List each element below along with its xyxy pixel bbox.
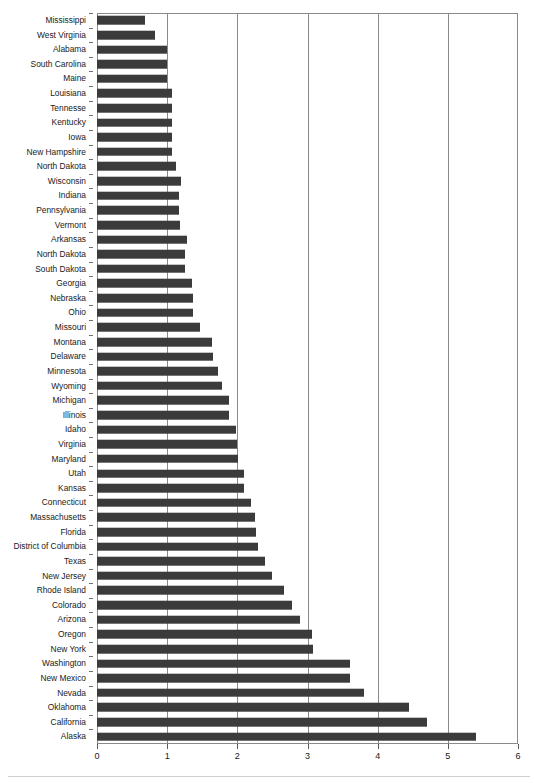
bar-row — [97, 364, 518, 379]
bar — [97, 528, 256, 537]
category-label: Washington — [42, 656, 86, 671]
bar — [97, 645, 313, 654]
bar-row — [97, 700, 518, 715]
category-label: Indiana — [59, 188, 86, 203]
bar — [97, 338, 212, 347]
bar — [97, 294, 193, 303]
category-tick — [89, 642, 93, 643]
bar — [97, 133, 172, 142]
category-label: Arkansas — [51, 232, 86, 247]
bar — [97, 265, 185, 274]
bar — [97, 484, 244, 493]
category-label: Texas — [64, 554, 86, 569]
category-axis: MississippiWest VirginiaAlabamaSouth Car… — [0, 13, 93, 744]
bar — [97, 425, 236, 434]
bar — [97, 469, 244, 478]
category-tick — [89, 612, 93, 613]
bar — [97, 31, 155, 40]
category-label: North Dakota — [37, 247, 86, 262]
category-label: Wisconsin — [48, 174, 86, 189]
bar — [97, 45, 167, 54]
category-tick — [89, 232, 93, 233]
bar-row — [97, 729, 518, 744]
category-label: Pennsylvania — [36, 203, 86, 218]
category-tick — [89, 408, 93, 409]
bar-row — [97, 349, 518, 364]
bar — [97, 703, 409, 712]
bar-row — [97, 159, 518, 174]
bar — [97, 118, 172, 127]
category-tick — [89, 335, 93, 336]
bar — [97, 542, 258, 551]
page-rule — [8, 776, 530, 777]
category-label: New Mexico — [40, 671, 86, 686]
category-tick — [89, 671, 93, 672]
bar-row — [97, 174, 518, 189]
bar-row — [97, 305, 518, 320]
category-label: Delaware — [51, 349, 86, 364]
bar-row — [97, 481, 518, 496]
bar-row — [97, 495, 518, 510]
category-label: Arizona — [58, 612, 86, 627]
value-tick-label: 5 — [445, 751, 450, 761]
category-label: Mississippi — [46, 13, 87, 28]
bar — [97, 615, 300, 624]
bar — [97, 586, 284, 595]
bar — [97, 206, 179, 215]
category-label: Ohio — [68, 305, 86, 320]
category-label: Florida — [60, 525, 86, 540]
category-tick — [89, 437, 93, 438]
bar-row — [97, 525, 518, 540]
bar — [97, 382, 222, 391]
category-label: Virginia — [58, 437, 86, 452]
bar-row — [97, 57, 518, 72]
bar-row — [97, 101, 518, 116]
value-tick-label: 3 — [305, 751, 310, 761]
category-label: Louisiana — [50, 86, 86, 101]
category-tick — [89, 115, 93, 116]
bar-row — [97, 671, 518, 686]
bar-chart: MississippiWest VirginiaAlabamaSouth Car… — [0, 0, 534, 783]
bar-row — [97, 598, 518, 613]
category-label: Nebraska — [50, 291, 86, 306]
category-tick — [89, 218, 93, 219]
plot-area — [97, 13, 518, 744]
bar — [97, 235, 187, 244]
bar-row — [97, 291, 518, 306]
category-tick — [89, 452, 93, 453]
category-label: Oklahoma — [48, 700, 86, 715]
category-tick — [89, 276, 93, 277]
bar-row — [97, 28, 518, 43]
category-tick — [89, 28, 93, 29]
category-tick — [89, 291, 93, 292]
bar-row — [97, 379, 518, 394]
bar — [97, 689, 364, 698]
category-tick — [89, 247, 93, 248]
category-tick — [89, 715, 93, 716]
bar-row — [97, 452, 518, 467]
bar — [97, 162, 176, 171]
category-tick — [89, 305, 93, 306]
bar — [97, 279, 192, 288]
category-tick — [89, 349, 93, 350]
category-tick — [89, 71, 93, 72]
category-tick — [89, 729, 93, 730]
bar-row — [97, 612, 518, 627]
category-tick — [89, 422, 93, 423]
value-tick-4 — [378, 744, 379, 749]
category-tick — [89, 42, 93, 43]
bar-row — [97, 13, 518, 28]
category-tick — [89, 262, 93, 263]
bar-row — [97, 188, 518, 203]
category-label: Michigan — [52, 393, 86, 408]
bar-row — [97, 408, 518, 423]
category-tick — [89, 320, 93, 321]
category-tick — [89, 86, 93, 87]
category-label: Kentucky — [52, 115, 86, 130]
category-tick — [89, 101, 93, 102]
bar-row — [97, 145, 518, 160]
category-label: Georgia — [56, 276, 86, 291]
category-label: New York — [51, 642, 86, 657]
bar — [97, 572, 272, 581]
category-label: Iowa — [68, 130, 86, 145]
